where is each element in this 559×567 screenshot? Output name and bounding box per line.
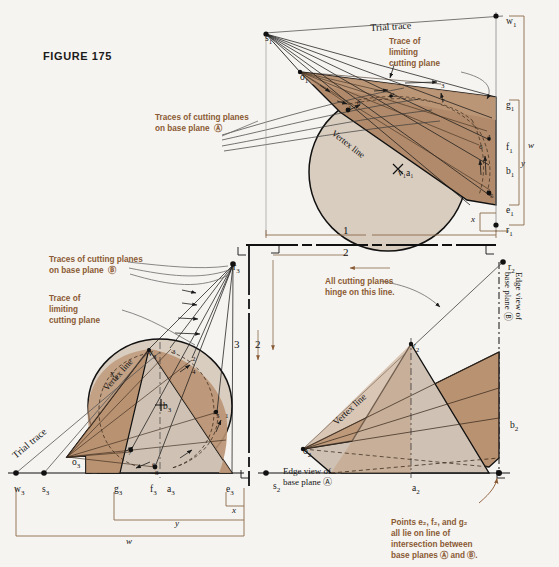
point-label-v2: v2 [411,341,419,354]
point-label-f3: f3 [150,484,157,497]
point-label-s1: s1 [265,33,272,46]
element-number-top_view-7: 7 [441,97,445,105]
element-number-top_view-1: 1 [348,104,352,112]
point-label-x3: x3 [110,369,118,382]
points-note-leader [479,478,497,503]
annotation-hinge: All cutting planes hinge on this line. [325,277,395,299]
element-number-aux_view-3: 3 [172,348,176,356]
element-number-top_view-2: 2 [391,91,395,99]
element-number-top_view-4: 4 [487,133,491,141]
element-number-aux_view-7: 7 [128,449,132,457]
point-label-b2: b2 [510,420,518,433]
element-number-aux_view-6: 6 [152,461,156,469]
top-view-group [222,12,503,251]
annotation-limiting-left: Trace of limiting cutting plane [49,294,100,326]
annotation-points-note: Points e₂, f₂, and g₂ all lie on line of… [391,518,478,562]
point-label-s3: s3 [42,484,49,497]
corner-square-right [486,246,494,254]
dimension-label-top_view-x: x [471,214,475,225]
point-label-w1: w1 [506,16,516,29]
point-label-o2: o2 [303,446,311,459]
point-label-r2: r2 [508,262,515,275]
fold-label-2b: 2 [255,338,261,351]
point-label-a2: a2 [412,483,420,496]
point-label-e1: e1 [506,205,514,218]
point-label-g3: g3 [114,484,122,497]
dimension-label-top_view-y: y [521,158,525,169]
point-label-r1: r1 [506,225,513,238]
point-label-g1: g1 [506,100,514,113]
element-number-aux_view-2: 2 [192,355,196,363]
point-label-b1: b1 [506,166,514,179]
point-label-r3: r3 [233,262,240,275]
point-label-o3: o3 [72,457,80,470]
annotation-edge-view-a: Edge view of base plane Ⓐ [283,466,332,487]
annotation-edge-view-b: Edge view of base plane Ⓑ [503,272,524,321]
figure-title: FIGURE 175 [43,50,112,63]
point-label-b3: b3 [163,401,171,414]
point-label-v3: v3 [148,348,156,361]
point-label-a3: a3 [167,484,175,497]
element-number-aux_view-8: 8 [155,469,159,477]
annotation-traces-b: Traces of cutting planes on base plane Ⓑ [49,255,143,277]
fold-label-2: 2 [343,246,349,259]
dimension-label-aux_view-x: x [232,505,236,516]
element-number-top_view-5: 5 [490,192,494,200]
point-label-w3: w3 [14,484,24,497]
point-label-o1: o1 [300,72,308,85]
element-number-aux_view-5: 5 [216,412,220,420]
fold-label-1: 1 [343,224,349,237]
point-label-s2: s2 [273,481,280,494]
label-trial-trace-top: Trial trace [370,19,412,33]
point-label-e3: e3 [226,484,234,497]
dimension-label-aux_view-w: w [126,536,132,547]
point-label-v1a1: v₁a₁ [398,168,414,179]
corner-square-inner [271,245,279,253]
element-number-top_view-6: 6 [479,143,483,151]
figure-canvas: FIGURE 175 Traces of cutting planes on b… [0,0,559,567]
fold-label-3: 3 [234,338,240,351]
corner-square-lower [241,470,249,478]
corner-square-upper [238,247,246,255]
annotation-limiting-top: Trace of limiting cutting plane [389,37,440,69]
element-number-top_view-3: 3 [441,82,445,90]
point-label-f1: f1 [506,142,513,155]
element-number-aux_view-4: 4 [192,368,196,376]
dimension-label-top_view-w: w [528,140,534,151]
dimension-label-aux_view-y: y [175,518,179,529]
annotation-traces-a: Traces of cutting planes on base plane Ⓐ [155,113,249,135]
element-number-aux_view-1: 1 [225,412,229,420]
element-number-top_view-8: 8 [357,99,361,107]
